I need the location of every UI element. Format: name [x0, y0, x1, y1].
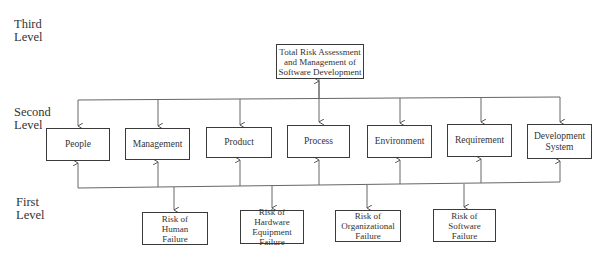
node-label: People: [65, 139, 91, 150]
node-label: Management: [133, 139, 183, 150]
node-label: Product: [224, 137, 254, 148]
root-node-label: Total Risk Assessment and Management of …: [278, 47, 361, 77]
node-product: Product: [206, 127, 272, 158]
node-risk-organizational-failure: Risk of Organizational Failure: [335, 210, 401, 242]
node-label: Development System: [534, 131, 585, 152]
node-risk-human-failure: Risk of Human Failure: [142, 212, 208, 245]
node-environment: Environment: [367, 125, 432, 158]
node-requirement: Requirement: [447, 124, 512, 157]
node-process: Process: [287, 125, 350, 158]
first-level-label: First Level: [16, 196, 44, 222]
node-label: Risk of Hardware Equipment Failure: [241, 207, 303, 247]
node-management: Management: [125, 128, 190, 160]
third-level-label: Third Level: [14, 18, 42, 44]
node-label: Risk of Human Failure: [162, 214, 189, 244]
node-development-system: Development System: [527, 124, 592, 159]
node-label: Risk of Organizational Failure: [341, 211, 394, 241]
node-risk-software-failure: Risk of Software Failure: [433, 209, 496, 242]
node-label: Requirement: [455, 135, 504, 146]
node-people: People: [46, 128, 110, 161]
node-label: Environment: [375, 136, 425, 147]
node-label: Risk of Software Failure: [448, 211, 481, 241]
node-risk-hardware-failure: Risk of Hardware Equipment Failure: [240, 210, 304, 244]
node-label: Process: [304, 136, 333, 147]
root-node-total-risk: Total Risk Assessment and Management of …: [276, 44, 364, 79]
